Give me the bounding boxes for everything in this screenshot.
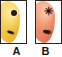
dark-radiating-spot-icon-b: ✳ [44,6,53,16]
panel-labels: A B [0,45,62,57]
panel-row: ✳ [0,0,62,45]
panel-a[interactable] [0,0,27,44]
panel-b[interactable]: ✳ [35,0,62,44]
dark-spot-icon-a [11,10,17,16]
panel-label-a: A [3,45,30,57]
figure-two-panel-comparison: ✳ A B [0,0,62,57]
specimen-body-a [0,1,20,42]
panel-label-b: B [32,45,59,57]
